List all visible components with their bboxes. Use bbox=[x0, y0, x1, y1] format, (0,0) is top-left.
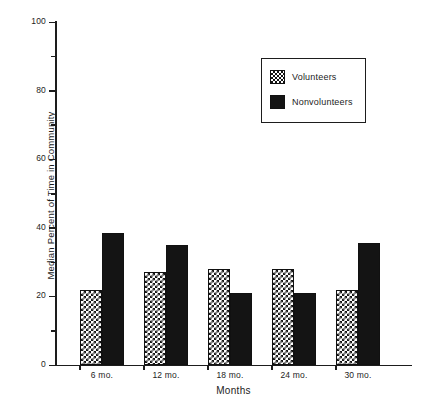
bar-nonvolunteers-12mo bbox=[166, 245, 188, 365]
y-tick-minor-90 bbox=[51, 56, 56, 58]
x-tick-label-6mo: 6 mo. bbox=[72, 370, 132, 381]
legend-label-nonvolunteers: Nonvolunteers bbox=[292, 96, 353, 108]
bar-volunteers-24mo bbox=[272, 269, 294, 365]
bar-nonvolunteers-6mo bbox=[102, 233, 124, 365]
y-tick-major-0 bbox=[49, 365, 56, 367]
legend-label-volunteers: Volunteers bbox=[292, 71, 337, 83]
x-axis-title: Months bbox=[55, 385, 412, 396]
y-tick-label-60: 60 bbox=[6, 154, 46, 163]
y-tick-label-80: 80 bbox=[6, 86, 46, 95]
bar-nonvolunteers-30mo bbox=[358, 243, 380, 365]
bar-volunteers-6mo bbox=[80, 290, 102, 366]
y-tick-minor-10 bbox=[51, 330, 56, 332]
bar-nonvolunteers-24mo bbox=[294, 293, 316, 365]
chart-legend: Volunteers Nonvolunteers bbox=[261, 58, 366, 123]
y-tick-label-0: 0 bbox=[6, 360, 46, 369]
y-tick-label-100: 100 bbox=[6, 17, 46, 26]
bar-volunteers-12mo bbox=[144, 272, 166, 365]
checkerboard-swatch-icon bbox=[270, 70, 285, 84]
bar-volunteers-18mo bbox=[208, 269, 230, 365]
bar-chart-figure: 100 80 60 40 20 0 Median Percent of Time… bbox=[0, 0, 432, 408]
bar-volunteers-30mo bbox=[336, 290, 358, 366]
x-tick-label-24mo: 24 mo. bbox=[264, 370, 324, 381]
x-tick-label-30mo: 30 mo. bbox=[328, 370, 388, 381]
x-tick-label-12mo: 12 mo. bbox=[136, 370, 196, 381]
y-tick-major-100 bbox=[49, 22, 56, 24]
y-tick-label-40: 40 bbox=[6, 223, 46, 232]
solid-black-swatch-icon bbox=[270, 95, 285, 109]
bar-nonvolunteers-18mo bbox=[230, 293, 252, 365]
y-tick-label-20: 20 bbox=[6, 291, 46, 300]
y-axis-title: Median Percent of Time in Community bbox=[45, 76, 56, 316]
x-tick-label-18mo: 18 mo. bbox=[200, 370, 260, 381]
